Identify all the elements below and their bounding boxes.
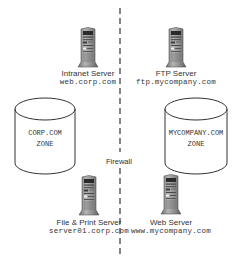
zone-suffix: ZONE: [10, 139, 80, 150]
server-label: Web Server www.mycompany.com: [126, 218, 216, 236]
server-icon: [160, 173, 182, 215]
server-icon: [165, 26, 187, 68]
server-name: FTP Server: [131, 69, 221, 78]
zone-suffix: ZONE: [160, 139, 232, 150]
server-name: Intranet Server: [48, 69, 128, 78]
mycompany-zone-label: MYCOMPANY.COM ZONE: [160, 128, 232, 150]
zone-name: MYCOMPANY.COM: [160, 128, 232, 139]
server-host: ftp.mycompany.com: [131, 78, 221, 87]
zone-name: CORP.COM: [10, 128, 80, 139]
corp-zone-label: CORP.COM ZONE: [10, 128, 80, 150]
server-label: File & Print Server server01.corp.com: [39, 218, 139, 236]
server-label: Intranet Server web.corp.com: [48, 69, 128, 87]
server-icon: [77, 26, 99, 68]
server-host: web.corp.com: [48, 78, 128, 87]
server-name: File & Print Server: [39, 218, 139, 227]
server-icon: [78, 174, 100, 216]
server-host: server01.corp.com: [39, 227, 139, 236]
firewall-label: Firewall: [105, 157, 133, 166]
server-label: FTP Server ftp.mycompany.com: [131, 69, 221, 87]
server-name: Web Server: [126, 218, 216, 227]
server-host: www.mycompany.com: [126, 227, 216, 236]
